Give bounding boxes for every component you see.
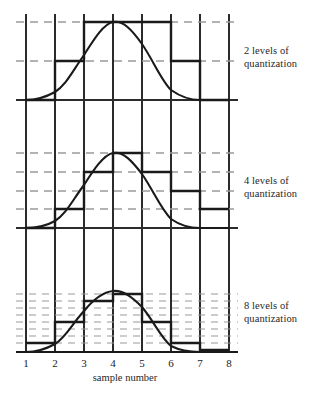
panel-label-2-levels: 2 levels of quantization (244, 44, 297, 70)
panel-label-8-levels: 8 levels of quantization (244, 299, 297, 325)
x-tick-label-2: 2 (48, 357, 62, 369)
x-tick-label-7: 7 (193, 357, 207, 369)
x-axis-title: sample number (60, 372, 190, 383)
x-tick-label-3: 3 (77, 357, 91, 369)
panel-label-4-levels: 4 levels of quantization (244, 174, 297, 200)
x-tick-label-4: 4 (106, 357, 120, 369)
x-tick-label-6: 6 (164, 357, 178, 369)
x-tick-label-5: 5 (135, 357, 149, 369)
x-tick-label-8: 8 (222, 357, 236, 369)
x-tick-label-1: 1 (19, 357, 33, 369)
